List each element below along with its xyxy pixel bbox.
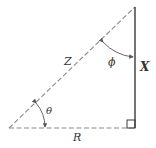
- vertical-label: X: [139, 60, 150, 74]
- theta-label: θ: [46, 105, 52, 116]
- phi-label: ϕ: [108, 56, 116, 69]
- phi-arc: [103, 42, 133, 57]
- base-label: R: [72, 131, 81, 144]
- hypotenuse-z-line: [9, 7, 135, 128]
- right-angle-marker: [127, 120, 135, 128]
- theta-arc: [36, 103, 45, 127]
- impedance-triangle-diagram: Z X R θ ϕ: [0, 0, 156, 148]
- hypotenuse-label: Z: [63, 55, 72, 68]
